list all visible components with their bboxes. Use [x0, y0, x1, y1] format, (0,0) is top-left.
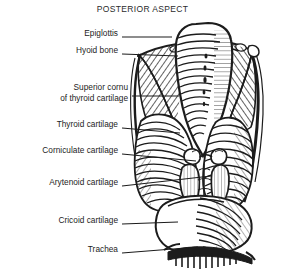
label-corniculate-cartilage-text: Corniculate cartilage — [42, 145, 118, 155]
label-arytenoid-cartilage-text: Arytenoid cartilage — [49, 177, 118, 187]
label-corniculate-cartilage: Corniculate cartilage — [42, 145, 118, 156]
larynx-posterior-illustration — [0, 0, 285, 275]
anatomical-figure: POSTERIOR ASPECT — [0, 0, 285, 275]
label-hyoid-bone: Hyoid bone — [76, 45, 118, 56]
label-superior-cornu-line1: Superior cornu — [60, 82, 128, 93]
label-hyoid-bone-text: Hyoid bone — [76, 45, 118, 55]
label-cricoid-cartilage: Cricoid cartilage — [59, 215, 118, 226]
label-thyroid-cartilage: Thyroid cartilage — [57, 119, 118, 130]
label-trachea: Trachea — [88, 244, 118, 255]
label-superior-cornu-line2: of thyroid cartilage — [60, 93, 128, 104]
label-superior-cornu-of-thyroid-cartilage: Superior cornu of thyroid cartilage — [60, 82, 128, 104]
label-epiglottis: Epiglottis — [84, 28, 118, 39]
label-thyroid-cartilage-text: Thyroid cartilage — [57, 119, 118, 129]
label-epiglottis-text: Epiglottis — [84, 28, 118, 38]
label-cricoid-cartilage-text: Cricoid cartilage — [59, 215, 118, 225]
label-arytenoid-cartilage: Arytenoid cartilage — [49, 177, 118, 188]
label-trachea-text: Trachea — [88, 244, 118, 254]
